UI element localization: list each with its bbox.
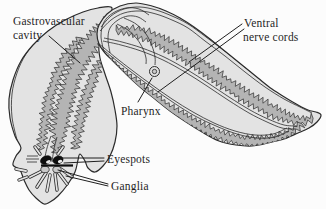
ganglion-right	[53, 166, 61, 172]
planarian-diagram: Gastrovascular cavity Ventral nerve cord…	[0, 0, 326, 209]
leader-ganglia-2	[66, 176, 108, 186]
label-gastrovascular-cavity-line1: Gastrovascular	[13, 15, 85, 27]
ganglion-left	[41, 166, 49, 172]
label-ganglia: Ganglia	[111, 180, 149, 193]
label-pharynx: Pharynx	[121, 105, 161, 118]
label-ventral-nerve-cords-line2: nerve cords	[243, 31, 299, 43]
flatworm-anatomy-figure: Gastrovascular cavity Ventral nerve cord…	[0, 0, 326, 209]
pharynx-opening-inner	[152, 69, 156, 73]
label-ventral-nerve-cords-line1: Ventral	[244, 17, 279, 29]
label-gastrovascular-cavity-line2: cavity	[13, 29, 42, 42]
label-eyespots: Eyespots	[107, 153, 150, 166]
